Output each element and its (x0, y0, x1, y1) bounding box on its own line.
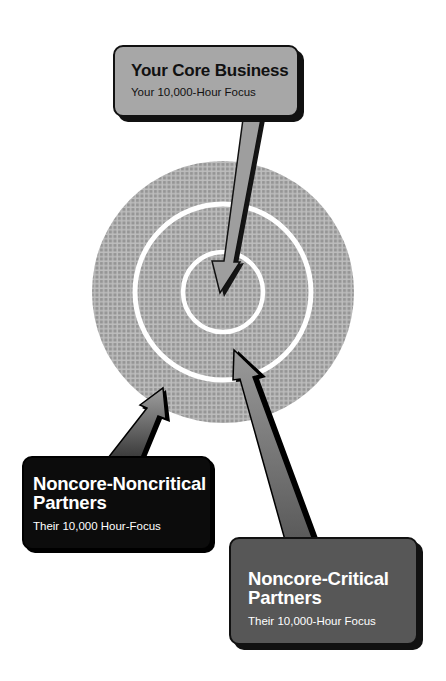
noncore-noncritical-callout: Noncore-Noncritical Partners Their 10,00… (22, 456, 212, 550)
noncore-noncritical-title-line1: Noncore-Noncritical (33, 474, 210, 493)
noncore-critical-callout: Noncore-Critical Partners Their 10,000-H… (229, 537, 418, 645)
core-business-callout: Your Core Business Your 10,000-Hour Focu… (113, 45, 299, 117)
core-business-title: Your Core Business (131, 62, 297, 80)
core-business-subtitle: Your 10,000-Hour Focus (131, 86, 297, 99)
noncore-noncritical-subtitle: Their 10,000 Hour-Focus (33, 520, 210, 533)
noncritical-arrow (108, 388, 170, 460)
noncore-noncritical-title-line2: Partners (33, 493, 210, 512)
noncore-critical-subtitle: Their 10,000-Hour Focus (248, 615, 416, 628)
noncore-critical-title-line1: Noncore-Critical (248, 569, 416, 588)
noncore-critical-title-line2: Partners (248, 588, 416, 607)
